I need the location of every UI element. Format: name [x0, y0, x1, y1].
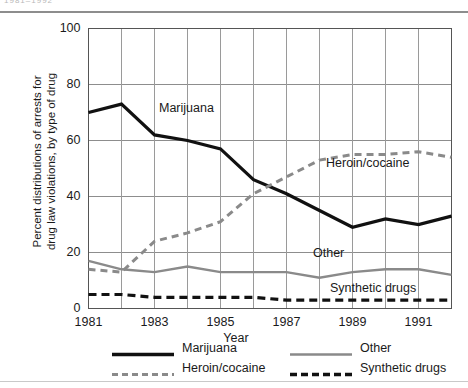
- series-line-synthetic-drugs: [89, 295, 452, 301]
- series-annotation-synthetic-drugs: Synthetic drugs: [330, 281, 416, 295]
- legend-swatch: [290, 365, 352, 374]
- series-annotation-heroin-cocaine: Heroin/cocaine: [326, 156, 409, 170]
- legend-label: Synthetic drugs: [360, 361, 446, 375]
- legend-swatch: [290, 345, 352, 354]
- legend-label: Marijuana: [182, 341, 237, 355]
- legend-swatch: [112, 345, 174, 354]
- series-annotation-other: Other: [313, 246, 344, 260]
- legend-label: Other: [360, 341, 391, 355]
- series-line-other: [89, 261, 452, 278]
- legend-swatch: [112, 365, 174, 374]
- plot-area: [0, 0, 468, 388]
- chart-legend: MarijuanaOtherHeroin/cocaineSynthetic dr…: [112, 341, 452, 381]
- series-annotation-marijuana: Marijuana: [159, 101, 214, 115]
- figure-chart-drug-arrests: 1981–1992 Percent distributions of arres…: [0, 0, 468, 388]
- legend-label: Heroin/cocaine: [182, 361, 265, 375]
- data-series-layer: [89, 104, 452, 300]
